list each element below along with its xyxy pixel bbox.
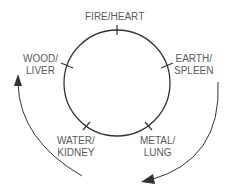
- label-earth-line2: SPLEEN: [174, 65, 213, 77]
- label-fire-line1: FIRE/HEART: [85, 11, 144, 23]
- label-earth-line1: EARTH/: [174, 53, 213, 65]
- arrow-down-left-icon: [141, 174, 155, 184]
- label-water-line1: WATER/: [57, 135, 95, 147]
- cycle-graphic: [0, 0, 227, 192]
- arrow-up-icon: [14, 74, 22, 86]
- label-wood: WOOD/ LIVER: [23, 53, 58, 77]
- label-metal-line2: LUNG: [140, 147, 175, 159]
- label-earth: EARTH/ SPLEEN: [174, 53, 213, 77]
- label-fire: FIRE/HEART: [85, 11, 144, 23]
- label-wood-line2: LIVER: [23, 65, 58, 77]
- tick-water: [83, 122, 90, 130]
- left-cycle-arrow: [18, 84, 82, 176]
- element-circle: [64, 30, 170, 136]
- five-elements-diagram: FIRE/HEART EARTH/ SPLEEN METAL/ LUNG WAT…: [0, 0, 227, 192]
- label-water-line2: KIDNEY: [57, 147, 95, 159]
- label-metal-line1: METAL/: [140, 135, 175, 147]
- label-wood-line1: WOOD/: [23, 53, 58, 65]
- right-cycle-arrow: [150, 82, 218, 180]
- label-water: WATER/ KIDNEY: [57, 135, 95, 159]
- label-metal: METAL/ LUNG: [140, 135, 175, 159]
